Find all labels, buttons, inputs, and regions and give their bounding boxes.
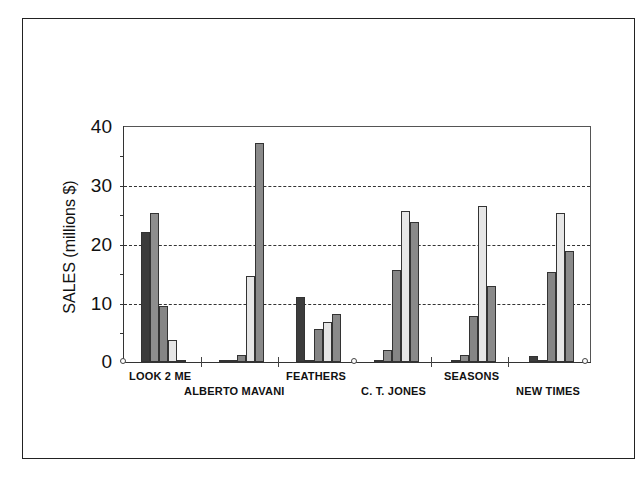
bar bbox=[410, 222, 419, 362]
x-axis bbox=[123, 362, 591, 363]
category-label-new-times: NEW TIMES bbox=[516, 385, 580, 397]
bar bbox=[565, 251, 574, 363]
bar bbox=[538, 360, 547, 362]
category-label-feathers: FEATHERS bbox=[286, 370, 346, 382]
bar bbox=[305, 360, 314, 362]
bar bbox=[401, 211, 410, 362]
bar bbox=[228, 360, 237, 362]
bar bbox=[469, 316, 478, 362]
bar bbox=[219, 360, 228, 362]
category-label-alberto-mavani: ALBERTO MAVANI bbox=[184, 385, 285, 397]
bar bbox=[255, 143, 264, 362]
bar bbox=[314, 329, 323, 362]
bar bbox=[159, 306, 168, 362]
bar bbox=[374, 360, 383, 362]
bar bbox=[323, 322, 332, 362]
bar bbox=[392, 270, 401, 362]
bar bbox=[296, 297, 305, 362]
y-axis-label: SALES (millions $) bbox=[61, 167, 79, 327]
bar-series-container bbox=[123, 126, 591, 362]
bar bbox=[168, 340, 177, 362]
y-tick-label-0: 0 bbox=[72, 352, 112, 371]
bar bbox=[451, 360, 460, 362]
category-label-ct-jones: C. T. JONES bbox=[361, 385, 426, 397]
bar bbox=[460, 355, 469, 362]
bar bbox=[332, 314, 341, 362]
bar bbox=[237, 355, 246, 362]
y-tick-label-40: 40 bbox=[72, 117, 112, 136]
bar bbox=[246, 276, 255, 362]
bar bbox=[150, 213, 159, 362]
bar bbox=[141, 232, 150, 362]
bar bbox=[383, 350, 392, 362]
category-label-look-2-me: LOOK 2 ME bbox=[129, 370, 191, 382]
bar bbox=[529, 356, 538, 362]
bar bbox=[487, 286, 496, 362]
bar bbox=[556, 213, 565, 362]
bar bbox=[478, 206, 487, 362]
bar bbox=[177, 360, 186, 362]
category-label-seasons: SEASONS bbox=[444, 370, 499, 382]
bar bbox=[547, 272, 556, 362]
